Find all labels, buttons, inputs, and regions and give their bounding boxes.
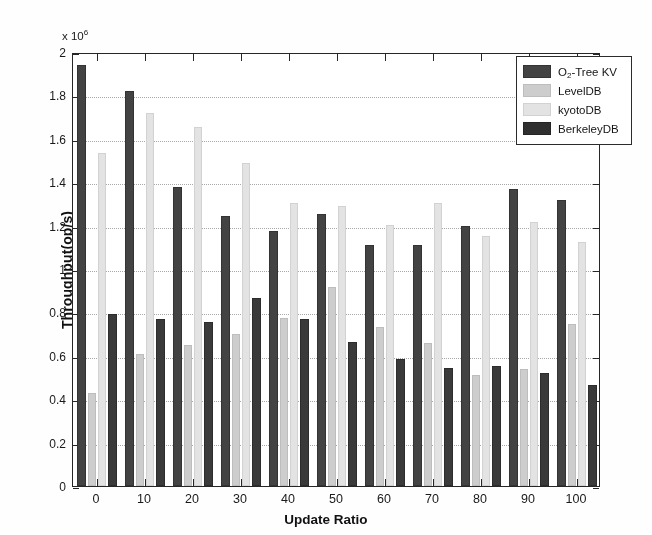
bar-kyotodb-10 [146,113,155,486]
x-axis-tick-label: 40 [263,492,313,506]
bar-o-2-tree-kv-60 [365,245,374,486]
bar-kyotodb-60 [386,225,395,486]
bar-leveldb-20 [184,345,193,486]
y-axis-tick [73,54,79,55]
bar-kyotodb-40 [290,203,299,486]
bar-berkeleydb-30 [252,298,261,486]
bar-berkeleydb-10 [156,319,165,486]
bar-kyotodb-100 [578,242,587,486]
bar-berkeleydb-40 [300,319,309,486]
x-axis-tick-top [433,54,434,61]
bar-berkeleydb-70 [444,368,453,486]
x-axis-tick-top [241,54,242,61]
bar-berkeleydb-80 [492,366,501,486]
y-axis-tick [593,54,599,55]
x-axis-tick-label: 90 [503,492,553,506]
y-axis-tick-label: 1.6 [26,133,66,147]
x-axis-tick-label: 50 [311,492,361,506]
bar-leveldb-60 [376,327,385,486]
y-axis-tick [593,228,599,229]
legend-item-label: O2-Tree KV [558,66,617,78]
x-axis-tick-top [337,54,338,61]
y-exponent-mantissa: x 10 [62,30,84,42]
y-axis-tick-label: 0.2 [26,437,66,451]
bar-kyotodb-50 [338,206,347,486]
bar-o-2-tree-kv-0 [77,65,86,486]
x-axis-title: Update Ratio [0,512,652,527]
x-axis-tick-top [97,54,98,61]
bar-kyotodb-20 [194,127,203,486]
bar-leveldb-50 [328,287,337,486]
legend-item[interactable]: kyotoDB [523,100,625,119]
y-axis-tick [593,271,599,272]
x-axis-tick-label: 60 [359,492,409,506]
bar-o-2-tree-kv-20 [173,187,182,486]
y-axis-tick-label: 1 [26,263,66,277]
y-axis-tick-label: 1.8 [26,89,66,103]
legend-item[interactable]: LevelDB [523,81,625,100]
x-axis-tick-label: 30 [215,492,265,506]
x-axis-tick-top [193,54,194,61]
y-axis-tick [593,358,599,359]
y-axis-tick [73,488,79,489]
bar-leveldb-100 [568,324,577,486]
y-exponent-power: 6 [84,28,88,37]
y-axis-tick-label: 0.4 [26,393,66,407]
y-axis-tick-label: 0 [26,480,66,494]
x-axis-tick-top [145,54,146,61]
x-axis-tick-top [289,54,290,61]
x-axis-tick-label: 20 [167,492,217,506]
legend-item[interactable]: BerkeleyDB [523,119,625,138]
x-axis-tick-label: 80 [455,492,505,506]
bar-leveldb-10 [136,354,145,486]
bar-o-2-tree-kv-80 [461,226,470,486]
y-axis-tick [593,184,599,185]
chart-legend: O2-Tree KVLevelDBkyotoDBBerkeleyDB [516,56,632,145]
legend-swatch-icon [523,122,551,135]
bar-berkeleydb-50 [348,342,357,486]
bar-o-2-tree-kv-70 [413,245,422,486]
legend-item-label: kyotoDB [558,104,601,116]
bar-o-2-tree-kv-90 [509,189,518,486]
bar-o-2-tree-kv-50 [317,214,326,486]
bar-berkeleydb-60 [396,359,405,486]
y-axis-tick [593,314,599,315]
legend-swatch-icon [523,103,551,116]
bar-leveldb-90 [520,369,529,486]
y-axis-tick-label: 1.4 [26,176,66,190]
bar-leveldb-0 [88,393,97,486]
legend-swatch-icon [523,84,551,97]
bar-leveldb-30 [232,334,241,486]
bar-leveldb-80 [472,375,481,486]
bar-leveldb-70 [424,343,433,486]
x-axis-tick-label: 70 [407,492,457,506]
bar-kyotodb-80 [482,236,491,486]
x-axis-tick-top [481,54,482,61]
y-axis-tick [593,488,599,489]
bar-kyotodb-30 [242,163,251,486]
y-axis-tick-label: 0.6 [26,350,66,364]
bar-kyotodb-70 [434,203,443,486]
bar-berkeleydb-0 [108,314,117,487]
figure-canvas: x 106 Throughput(op/s) Update Ratio O2-T… [0,0,652,535]
x-axis-tick-label: 10 [119,492,169,506]
x-axis-tick-label: 0 [71,492,121,506]
y-axis-tick-label: 2 [26,46,66,60]
legend-item-label: BerkeleyDB [558,123,619,135]
y-axis-tick-label: 0.8 [26,306,66,320]
bar-kyotodb-0 [98,153,107,486]
bar-kyotodb-90 [530,222,539,486]
bar-berkeleydb-20 [204,322,213,486]
legend-swatch-icon [523,65,551,78]
x-axis-tick-label: 100 [551,492,601,506]
legend-item[interactable]: O2-Tree KV [523,62,625,81]
bar-o-2-tree-kv-100 [557,200,566,486]
legend-item-label: LevelDB [558,85,601,97]
bar-berkeleydb-100 [588,385,597,486]
bar-o-2-tree-kv-10 [125,91,134,486]
bar-leveldb-40 [280,318,289,486]
y-axis-exponent-label: x 106 [62,28,88,42]
x-axis-tick-top [385,54,386,61]
bar-o-2-tree-kv-30 [221,216,230,486]
y-axis-tick-label: 1.2 [26,220,66,234]
